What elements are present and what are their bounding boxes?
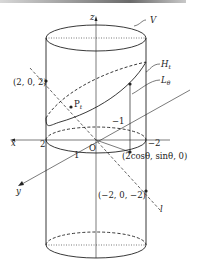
upper-point-label: (2, 0, 2) — [13, 77, 47, 87]
l-label: l — [160, 204, 163, 214]
z-arrow-icon — [95, 16, 98, 21]
tick-y-neg: −1 — [112, 116, 125, 126]
tick-x-neg: −2 — [148, 138, 161, 148]
lower-point-label: (−2, 0, −2) — [98, 190, 146, 200]
point-P — [69, 105, 72, 108]
H-leader — [146, 64, 160, 72]
x-label: x — [11, 138, 16, 148]
circle-point-label: (2cosθ, sinθ, 0) — [122, 151, 187, 161]
origin-label: O — [89, 143, 96, 153]
point-L-top — [128, 82, 131, 85]
P-label: Pt — [74, 99, 83, 110]
V-leader — [134, 20, 146, 26]
z-label: z — [89, 12, 95, 22]
H-label: Ht — [160, 59, 171, 70]
line-l — [30, 68, 160, 210]
tick-x-pos: 2 — [40, 139, 45, 149]
cylinder-diagram: z V Ht Lθ (2, 0, 2) Pt −1 x 2 O −2 1 (2c… — [0, 0, 198, 265]
tick-y-pos: 1 — [74, 150, 79, 160]
y-axis — [22, 90, 190, 184]
V-label: V — [150, 15, 157, 25]
L-label: Lθ — [160, 75, 171, 86]
y-label: y — [15, 186, 21, 196]
